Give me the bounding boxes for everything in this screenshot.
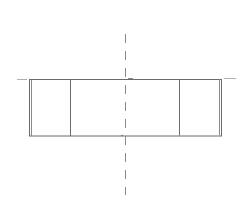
bottom-center-mark bbox=[121, 135, 123, 137]
section-drawing bbox=[0, 0, 250, 206]
